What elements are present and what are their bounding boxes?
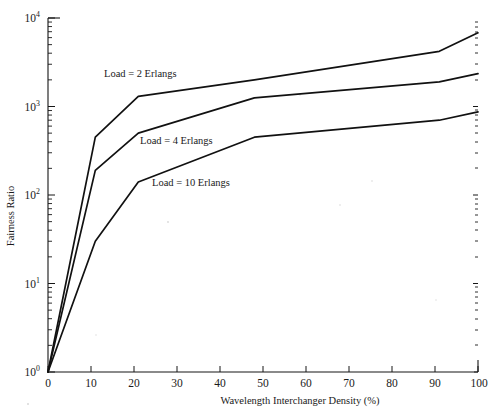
figure-container: 0 10 20 30 40 50 60 70 80 90 100 Wavelen… xyxy=(0,0,503,415)
y-tick-label: 100 xyxy=(25,364,41,378)
y-axis-title: Fairness Ratio xyxy=(5,186,16,246)
y-axis-tick-labels: 100 101 102 103 104 xyxy=(25,10,41,378)
data-curves xyxy=(48,33,478,372)
series-line xyxy=(48,74,478,372)
x-axis-tick-labels: 0 10 20 30 40 50 60 70 80 90 100 xyxy=(45,377,488,389)
x-tick-label: 0 xyxy=(45,377,51,389)
y-tick-label: 102 xyxy=(25,187,41,201)
chart-svg: 0 10 20 30 40 50 60 70 80 90 100 Wavelen… xyxy=(0,0,503,415)
series-line xyxy=(48,112,478,372)
x-axis-ticks xyxy=(48,366,478,372)
x-tick-label: 40 xyxy=(214,377,226,389)
y-axis-minor-ticks xyxy=(48,22,52,345)
y-tick-label: 101 xyxy=(25,276,41,290)
x-tick-label: 50 xyxy=(257,377,269,389)
x-axis-title: Wavelength Interchanger Density (%) xyxy=(220,395,380,407)
annotation-load-10: Load = 10 Erlangs xyxy=(152,177,230,188)
x-tick-label: 90 xyxy=(429,377,441,389)
paper-noise xyxy=(27,94,437,405)
x-tick-label: 20 xyxy=(128,377,140,389)
x-tick-label: 70 xyxy=(343,377,355,389)
annotation-load-2: Load = 2 Erlangs xyxy=(104,68,177,79)
x-tick-label: 100 xyxy=(470,377,488,389)
x-tick-label: 10 xyxy=(85,377,97,389)
x-tick-label: 60 xyxy=(300,377,312,389)
x-tick-label: 80 xyxy=(386,377,398,389)
annotation-load-4: Load = 4 Erlangs xyxy=(140,135,213,146)
y-tick-label: 104 xyxy=(25,10,41,24)
y-tick-label: 103 xyxy=(25,99,41,113)
x-tick-label: 30 xyxy=(171,377,183,389)
